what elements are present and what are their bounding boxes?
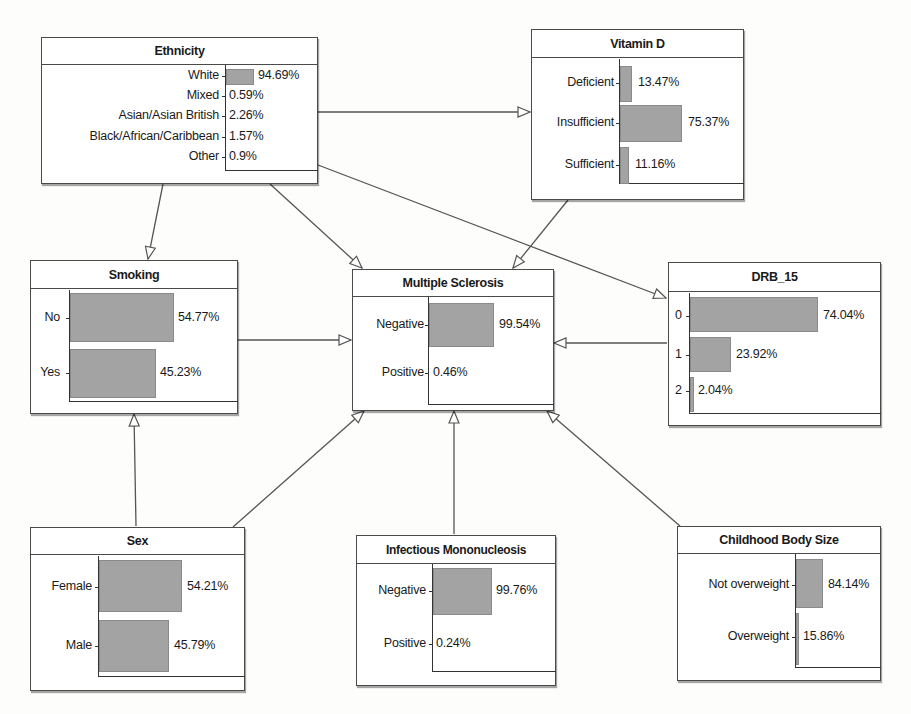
state-label: Negative bbox=[378, 583, 426, 597]
state-label: White bbox=[188, 68, 219, 82]
tick bbox=[425, 373, 429, 374]
state-label: Female bbox=[52, 579, 92, 593]
tick bbox=[222, 137, 226, 138]
probability-value: 94.69% bbox=[258, 68, 299, 82]
edge-ethnicity-multiple-sclerosis bbox=[270, 184, 362, 268]
probability-value: 1.57% bbox=[229, 129, 263, 143]
node-title: Smoking bbox=[31, 261, 237, 289]
probability-value: 15.86% bbox=[803, 629, 844, 643]
node-sex[interactable]: Sex Female 54.21% Male 45.79% bbox=[30, 527, 245, 691]
probability-value: 0.9% bbox=[229, 149, 257, 163]
probability-bar bbox=[99, 620, 169, 672]
probability-value: 0.46% bbox=[433, 365, 467, 379]
node-smoking[interactable]: Smoking No 54.77% Yes 45.23% bbox=[30, 260, 238, 414]
state-label: Positive bbox=[382, 365, 424, 379]
tick bbox=[222, 157, 226, 158]
state-label: Insufficient bbox=[557, 115, 614, 129]
probability-value: 45.23% bbox=[160, 365, 201, 379]
probability-value: 13.47% bbox=[638, 75, 679, 89]
edge-cbs-multiple-sclerosis bbox=[547, 411, 680, 526]
probability-bar bbox=[226, 69, 254, 85]
state-label: Not overweight bbox=[708, 577, 789, 591]
probability-value: 0.24% bbox=[436, 636, 470, 650]
node-ethnicity[interactable]: Ethnicity White 94.69% Mixed 0.59% Asian… bbox=[41, 37, 318, 184]
state-label: 2 bbox=[675, 383, 682, 397]
state-label: Other bbox=[189, 149, 219, 163]
probability-bar bbox=[620, 105, 682, 142]
edge-sex-smoking bbox=[134, 414, 136, 526]
probability-bar bbox=[690, 377, 694, 412]
probability-bar bbox=[690, 337, 731, 372]
probability-value: 2.26% bbox=[229, 108, 263, 122]
state-label: Male bbox=[66, 638, 92, 652]
state-label: Asian/Asian British bbox=[119, 108, 219, 122]
probability-bar bbox=[70, 349, 156, 398]
edge-sex-multiple-sclerosis bbox=[233, 411, 364, 527]
probability-value: 74.04% bbox=[823, 308, 864, 322]
probability-value: 99.76% bbox=[496, 583, 537, 597]
state-label: Overweight bbox=[728, 629, 789, 643]
probability-value: 0.59% bbox=[229, 88, 263, 102]
probability-bar bbox=[70, 293, 174, 342]
probability-bar bbox=[796, 559, 823, 608]
node-multiple-sclerosis[interactable]: Multiple Sclerosis Negative 99.54% Posit… bbox=[352, 269, 554, 411]
node-title: Infectious Mononucleosis bbox=[357, 536, 555, 564]
node-title: DRB_15 bbox=[669, 263, 880, 292]
probability-bar bbox=[433, 568, 492, 615]
probability-bar bbox=[690, 297, 818, 332]
state-label: Sufficient bbox=[565, 157, 614, 171]
probability-value: 54.77% bbox=[178, 310, 219, 324]
probability-value: 84.14% bbox=[828, 577, 869, 591]
probability-bar bbox=[796, 613, 799, 665]
state-label: No bbox=[44, 310, 60, 324]
probability-value: 99.54% bbox=[499, 317, 540, 331]
probability-bar bbox=[99, 560, 182, 612]
node-title: Multiple Sclerosis bbox=[353, 270, 553, 297]
node-title: Vitamin D bbox=[532, 30, 743, 58]
state-label: Negative bbox=[376, 317, 424, 331]
node-vitamin-d[interactable]: Vitamin D Deficient 13.47% Insufficient … bbox=[531, 29, 744, 200]
probability-value: 75.37% bbox=[688, 115, 729, 129]
probability-bar bbox=[620, 147, 629, 184]
node-childhood-body-size[interactable]: Childhood Body Size Not overweight 84.14… bbox=[677, 526, 881, 681]
node-title: Sex bbox=[31, 528, 244, 555]
probability-value: 11.16% bbox=[635, 157, 675, 171]
node-infectious-mononucleosis[interactable]: Infectious Mononucleosis Negative 99.76%… bbox=[356, 535, 556, 686]
state-label: Positive bbox=[384, 636, 426, 650]
node-drb-15[interactable]: DRB_15 0 74.04% 1 23.92% 2 2.04% bbox=[668, 262, 881, 426]
edge-ethnicity-smoking bbox=[148, 184, 163, 259]
probability-bar bbox=[429, 303, 494, 347]
tick bbox=[429, 644, 433, 645]
state-label: 1 bbox=[675, 347, 682, 361]
tick bbox=[222, 96, 226, 97]
probability-bar bbox=[620, 66, 632, 102]
state-label: Black/African/Caribbean bbox=[90, 129, 220, 143]
probability-value: 2.04% bbox=[698, 383, 732, 397]
probability-value: 23.92% bbox=[736, 347, 777, 361]
probability-value: 45.79% bbox=[174, 638, 215, 652]
probability-value: 54.21% bbox=[187, 579, 228, 593]
state-label: Yes bbox=[40, 365, 60, 379]
node-title: Childhood Body Size bbox=[678, 527, 880, 554]
tick bbox=[222, 116, 226, 117]
node-title: Ethnicity bbox=[42, 38, 317, 65]
state-label: Mixed bbox=[187, 88, 219, 102]
state-label: 0 bbox=[675, 308, 682, 322]
state-label: Deficient bbox=[567, 75, 614, 89]
